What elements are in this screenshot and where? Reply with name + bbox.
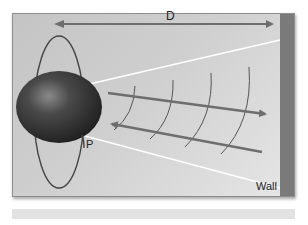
- outgoing-wave-arrow: [108, 93, 265, 114]
- wall: [280, 14, 294, 196]
- sphere: [16, 71, 102, 143]
- wall-label: Wall: [256, 181, 277, 192]
- diagram-stage: D P Wall: [0, 0, 308, 225]
- point-label: P: [86, 139, 93, 150]
- wavefronts: [114, 67, 249, 154]
- beam-line-lower: [85, 136, 280, 188]
- distance-label: D: [166, 10, 175, 22]
- distance-arrow-left-head: [54, 20, 64, 28]
- beam-line-upper: [85, 40, 280, 85]
